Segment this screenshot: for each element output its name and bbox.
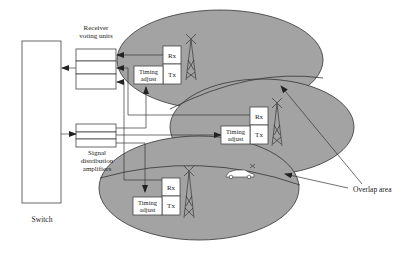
receiver-voting-units (76, 49, 116, 89)
signal-distribution-label-3: amplifiers (83, 165, 112, 173)
simulcast-diagram: Switch Receiver voting units Signal dist… (0, 0, 413, 255)
overlap-area-label: Overlap area (353, 185, 392, 194)
cell-top-timing-label-2: adjust (141, 75, 157, 82)
cell-bottom-timing-label-2: adjust (140, 206, 156, 213)
cell-middle-tx-label: Tx (255, 131, 263, 139)
cell-bottom-area (99, 136, 299, 240)
cell-bottom-tx-label: Tx (167, 202, 175, 210)
signal-distribution-label-2: distribution (81, 157, 114, 165)
cell-top-rx-label: Rx (168, 52, 177, 60)
cell-middle-timing-label-2: adjust (228, 135, 244, 142)
cell-bottom-rx-label: Rx (167, 184, 176, 192)
cell-middle-rx-label: Rx (255, 113, 264, 121)
cell-bottom-timing-label-1: Timing (138, 199, 158, 206)
signal-distribution-amplifiers (76, 124, 116, 147)
switch-label: Switch (32, 215, 53, 224)
receiver-voting-units-label-1: Receiver (84, 24, 110, 32)
switch-box (22, 41, 61, 203)
cell-top-tx-label: Tx (168, 71, 176, 79)
cell-middle-timing-label-1: Timing (226, 128, 246, 135)
cell-top-timing-label-1: Timing (139, 68, 159, 75)
signal-distribution-label-1: Signal (88, 149, 106, 157)
receiver-voting-units-label-2: voting units (79, 32, 113, 40)
